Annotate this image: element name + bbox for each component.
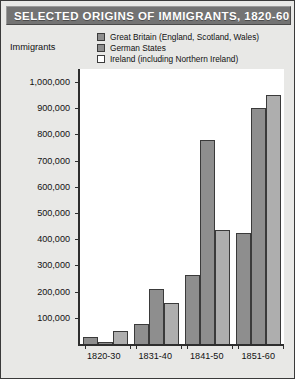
y-axis-tick: 700,000 [75,161,80,162]
legend-item-label: Ireland (including Northern Ireland) [110,55,238,64]
y-axis-tick: 300,000 [75,265,80,266]
chart-figure: SELECTED ORIGINS OF IMMIGRANTS, 1820-60 … [0,0,295,379]
bar [236,233,251,344]
legend-swatch-icon [97,33,105,41]
y-axis-tick-label: 1,000,000 [30,77,70,87]
y-axis-tick-label: 800,000 [37,129,70,139]
y-axis-tick-label: 200,000 [37,287,70,297]
bar [164,303,179,344]
bar [113,331,128,344]
bar [215,230,230,344]
bar-group [236,69,281,344]
x-axis-tick-label: 1820-30 [87,351,120,361]
legend-item: German States [97,43,292,53]
chart-legend: Great Britain (England, Scotland, Wales)… [97,32,292,65]
legend-swatch-icon [97,44,105,52]
y-axis-tick-label: 900,000 [37,103,70,113]
legend-item: Ireland (including Northern Ireland) [97,54,292,64]
x-axis-tick [130,344,131,349]
x-axis-tick [232,344,233,349]
bar [149,289,164,344]
bar [185,275,200,344]
y-axis-tick: 500,000 [75,213,80,214]
bar [134,324,149,344]
chart-title-bar: SELECTED ORIGINS OF IMMIGRANTS, 1820-60 [6,6,291,25]
bar-group [185,69,230,344]
page-title: SELECTED ORIGINS OF IMMIGRANTS, 1820-60 [14,10,290,22]
bar [98,342,113,344]
bar [200,140,215,344]
legend-item-label: Great Britain (England, Scotland, Wales) [110,33,259,42]
x-axis-tick-labels: 1820-301831-401841-501851-60 [78,351,284,361]
plot-area: 100,000200,000300,000400,000500,000600,0… [78,69,284,346]
bar-group [83,69,128,344]
x-axis-tick-label: 1841-50 [190,351,223,361]
bar [251,108,266,344]
bar-group [134,69,179,344]
y-axis-label: Immigrants [10,42,55,52]
x-axis-tick [181,344,182,349]
x-axis-tick [85,344,86,349]
y-axis-tick-label: 300,000 [37,260,70,270]
x-axis-tick-label: 1851-60 [242,351,275,361]
y-axis-tick: 200,000 [75,292,80,293]
x-axis-tick [238,344,239,349]
y-axis-tick-label: 500,000 [37,208,70,218]
y-axis-tick-label: 100,000 [37,313,70,323]
bar-series-container [80,69,284,344]
legend-item-label: German States [110,44,166,53]
y-axis-tick: 600,000 [75,187,80,188]
y-axis-tick: 100,000 [75,318,80,319]
x-axis-tick [283,344,284,349]
y-axis-tick-label: 400,000 [37,234,70,244]
legend-item: Great Britain (England, Scotland, Wales) [97,32,292,42]
y-axis-tick: 900,000 [75,108,80,109]
x-axis-tick-label: 1831-40 [139,351,172,361]
y-axis-tick-label: 700,000 [37,156,70,166]
x-axis-tick [187,344,188,349]
bar [266,95,281,344]
y-axis-tick-label: 600,000 [37,182,70,192]
y-axis-tick: 400,000 [75,239,80,240]
legend-swatch-icon [97,55,105,63]
x-axis-tick [136,344,137,349]
y-axis-tick: 1,000,000 [75,82,80,83]
y-axis-tick: 800,000 [75,134,80,135]
